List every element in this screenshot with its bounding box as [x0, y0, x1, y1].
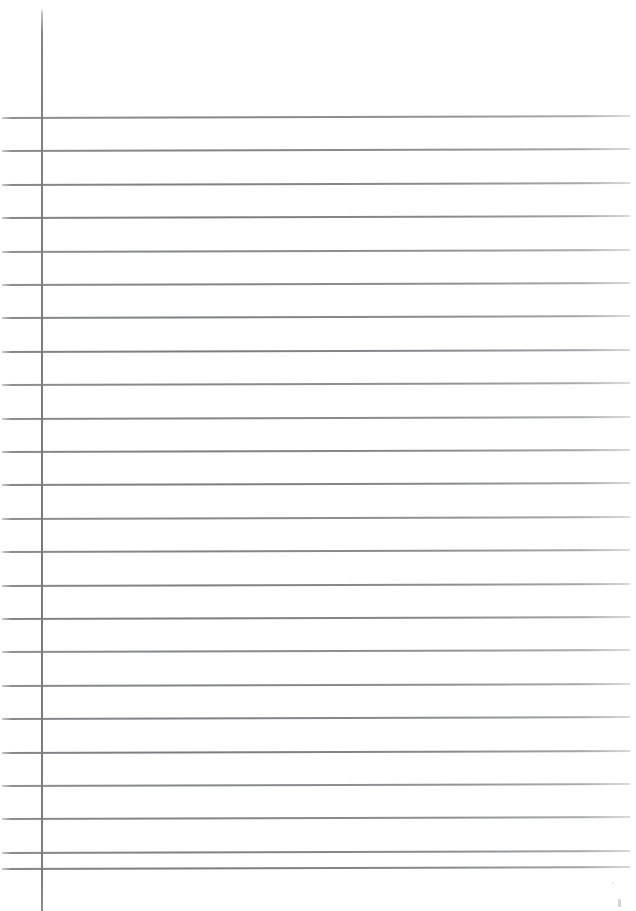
- writing-area[interactable]: [43, 0, 636, 911]
- notebook-page: [0, 0, 636, 911]
